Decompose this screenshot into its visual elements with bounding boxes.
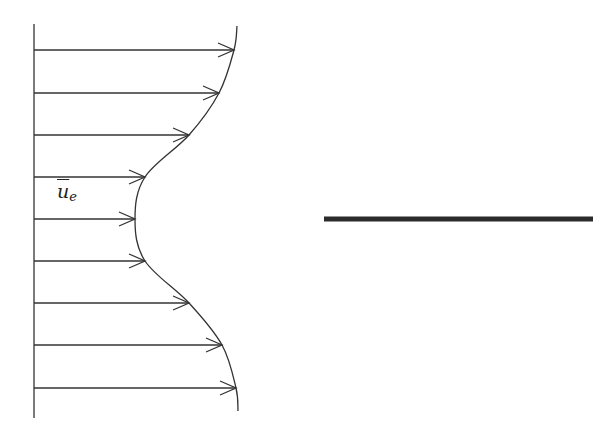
velocity-arrow bbox=[34, 212, 135, 226]
velocity-arrow bbox=[34, 170, 145, 184]
velocity-arrow bbox=[34, 43, 234, 57]
velocity-arrow bbox=[34, 128, 189, 142]
velocity-arrow bbox=[34, 254, 145, 268]
velocity-profile-diagram bbox=[0, 0, 615, 434]
velocity-arrow bbox=[34, 86, 219, 100]
velocity-arrow bbox=[34, 296, 189, 310]
flat-plate bbox=[324, 217, 593, 222]
velocity-arrow bbox=[34, 381, 236, 395]
profile-label-subscript: e bbox=[69, 189, 77, 204]
profile-label-ue: ue bbox=[57, 180, 77, 204]
velocity-arrow bbox=[34, 338, 222, 352]
profile-label-base: u bbox=[57, 180, 69, 202]
velocity-profile-curve bbox=[135, 26, 238, 411]
